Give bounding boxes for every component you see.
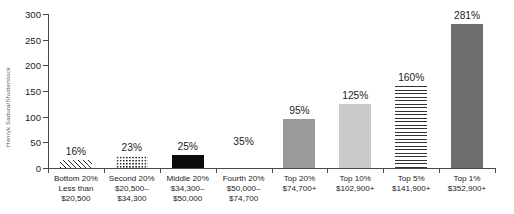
bar-value-label: 160% xyxy=(398,72,424,83)
x-axis-category-label: Bottom 20%Less than$20,500 xyxy=(48,174,104,205)
x-axis-category-label-line: $352,900+ xyxy=(439,184,495,194)
x-axis-category-label-line: Top 1% xyxy=(439,174,495,184)
y-axis-tick-label: 250 xyxy=(25,34,41,45)
y-axis-tick xyxy=(43,142,48,143)
x-axis-category-label-line: $20,500 xyxy=(48,194,104,204)
bar: 281% xyxy=(451,24,483,168)
bar: 95% xyxy=(283,119,315,168)
x-axis-category-label-line: Top 20% xyxy=(272,174,328,184)
x-axis-category-label-line: Top 5% xyxy=(383,174,439,184)
x-axis-category-label-line: Top 10% xyxy=(327,174,383,184)
bar: 23% xyxy=(116,156,148,168)
x-axis-category-label-line: $34,300 xyxy=(104,194,160,204)
bar-value-label: 25% xyxy=(177,141,197,152)
y-axis-tick-label: 0 xyxy=(36,163,41,174)
x-axis-category-label-line: $74,700+ xyxy=(272,184,328,194)
x-axis-category-label-line: $50,000– xyxy=(216,184,272,194)
y-axis-tick-label: 50 xyxy=(30,137,41,148)
x-axis-category-label-line: Middle 20% xyxy=(160,174,216,184)
y-axis-tick-label: 200 xyxy=(25,60,41,71)
y-axis-tick-label: 300 xyxy=(25,9,41,20)
x-axis-category-label-line: Bottom 20% xyxy=(48,174,104,184)
bar-value-label: 95% xyxy=(289,105,309,116)
x-axis-category-label: Top 1%$352,900+ xyxy=(439,174,495,194)
y-axis-tick xyxy=(43,65,48,66)
y-axis-tick-label: 150 xyxy=(25,86,41,97)
y-axis-tick xyxy=(43,40,48,41)
x-axis-tick xyxy=(272,168,273,173)
x-axis-category-label-line: $74,700 xyxy=(216,194,272,204)
bar: 160% xyxy=(395,86,427,168)
bar-value-label: 16% xyxy=(66,146,86,157)
x-axis-category-label-line: Second 20% xyxy=(104,174,160,184)
x-axis-category-label-line: $50,000 xyxy=(160,194,216,204)
bar: 35% xyxy=(228,150,260,168)
x-axis-tick xyxy=(439,168,440,173)
x-axis-category-label-line: $34,300– xyxy=(160,184,216,194)
y-axis-tick xyxy=(43,117,48,118)
x-axis-category-label: Top 20%$74,700+ xyxy=(272,174,328,194)
y-axis-tick xyxy=(43,91,48,92)
x-axis-tick xyxy=(495,168,496,173)
y-axis-line xyxy=(48,14,49,168)
x-axis-category-label-line: $141,900+ xyxy=(383,184,439,194)
plot-area: 050100150200250300 16%23%25%35%95%125%16… xyxy=(48,14,495,168)
x-axis-category-label: Fourth 20%$50,000–$74,700 xyxy=(216,174,272,205)
x-axis-category-label-line: $102,900+ xyxy=(327,184,383,194)
bar: 125% xyxy=(339,104,371,168)
x-axis-tick xyxy=(216,168,217,173)
bar: 16% xyxy=(60,160,92,168)
bar: 25% xyxy=(172,155,204,168)
x-axis-category-label-line: Fourth 20% xyxy=(216,174,272,184)
bar-value-label: 281% xyxy=(454,10,480,21)
y-axis-tick-label: 100 xyxy=(25,111,41,122)
x-axis-category-label: Top 10%$102,900+ xyxy=(327,174,383,194)
image-credit: Henryk Sadura/Shutterstock xyxy=(0,0,14,214)
bar-value-label: 125% xyxy=(342,90,368,101)
y-axis-tick xyxy=(43,14,48,15)
x-axis-tick xyxy=(160,168,161,173)
x-axis-category-label-line: $20,500– xyxy=(104,184,160,194)
x-axis-tick xyxy=(327,168,328,173)
x-axis-tick xyxy=(48,168,49,173)
x-axis-category-label-line: Less than xyxy=(48,184,104,194)
x-axis-labels: Bottom 20%Less than$20,500Second 20%$20,… xyxy=(48,174,495,214)
bar-chart-figure: Henryk Sadura/Shutterstock 0501001502002… xyxy=(0,0,514,214)
x-axis-tick xyxy=(104,168,105,173)
bar-value-label: 35% xyxy=(233,136,253,147)
x-axis-category-label: Second 20%$20,500–$34,300 xyxy=(104,174,160,205)
x-axis-tick xyxy=(383,168,384,173)
bar-value-label: 23% xyxy=(122,142,142,153)
x-axis-category-label: Top 5%$141,900+ xyxy=(383,174,439,194)
x-axis-category-label: Middle 20%$34,300–$50,000 xyxy=(160,174,216,205)
image-credit-text: Henryk Sadura/Shutterstock xyxy=(4,67,11,147)
